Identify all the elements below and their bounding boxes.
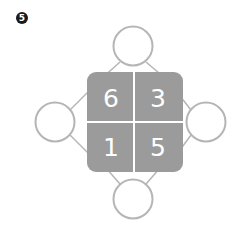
answer-circle-top[interactable] [114, 27, 153, 66]
diagram: 6 3 1 5 [0, 0, 245, 240]
number-grid: 6 3 1 5 [87, 72, 183, 172]
grid-cell-bottom-left: 1 [103, 133, 119, 162]
grid-cell-bottom-right: 5 [150, 133, 166, 162]
grid-cell-top-right: 3 [150, 84, 166, 113]
answer-circle-bottom[interactable] [114, 180, 153, 219]
grid-cell-top-left: 6 [103, 84, 119, 113]
answer-circle-right[interactable] [187, 103, 226, 142]
answer-circle-left[interactable] [36, 103, 75, 142]
